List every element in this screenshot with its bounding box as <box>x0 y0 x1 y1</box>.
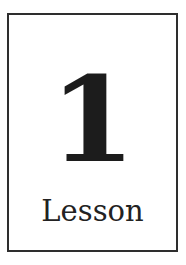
lesson-card: 1 Lesson <box>7 13 178 252</box>
lesson-label: Lesson <box>9 195 176 227</box>
lesson-number: 1 <box>5 61 180 179</box>
